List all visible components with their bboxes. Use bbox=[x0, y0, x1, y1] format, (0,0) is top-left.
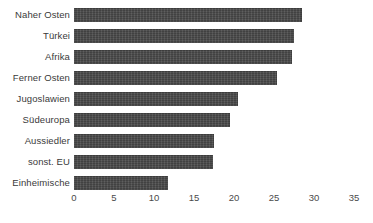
bar-track bbox=[74, 155, 354, 169]
chart-row: Ferner Osten bbox=[0, 70, 373, 91]
chart-row: Afrika bbox=[0, 49, 373, 70]
bar bbox=[74, 8, 302, 22]
bar bbox=[74, 134, 214, 148]
chart-row: Naher Osten bbox=[0, 7, 373, 28]
bar-chart: Naher Osten Türkei Afrika Ferner Osten J bbox=[0, 0, 373, 223]
bar-track bbox=[74, 92, 354, 106]
bar bbox=[74, 29, 294, 43]
x-axis-tick: 20 bbox=[214, 192, 254, 204]
category-label: Aussiedler bbox=[0, 135, 70, 147]
chart-plot-area: Naher Osten Türkei Afrika Ferner Osten J bbox=[0, 7, 373, 196]
bar bbox=[74, 155, 213, 169]
bar-track bbox=[74, 176, 354, 190]
bar bbox=[74, 50, 292, 64]
x-axis-tick: 35 bbox=[334, 192, 373, 204]
x-axis-tick: 15 bbox=[174, 192, 214, 204]
x-axis-tick: 25 bbox=[254, 192, 294, 204]
bar bbox=[74, 176, 168, 190]
bar bbox=[74, 113, 230, 127]
bar-track bbox=[74, 71, 354, 85]
category-label: Naher Osten bbox=[0, 9, 70, 21]
bar bbox=[74, 71, 277, 85]
category-label: Einheimische bbox=[0, 177, 70, 189]
bar-track bbox=[74, 50, 354, 64]
chart-row: Aussiedler bbox=[0, 133, 373, 154]
x-axis-tick: 10 bbox=[134, 192, 174, 204]
bar-track bbox=[74, 134, 354, 148]
category-label: sonst. EU bbox=[0, 156, 70, 168]
category-label: Jugoslawien bbox=[0, 93, 70, 105]
category-label: Südeuropa bbox=[0, 114, 70, 126]
chart-row: Türkei bbox=[0, 28, 373, 49]
chart-row: Südeuropa bbox=[0, 112, 373, 133]
bar bbox=[74, 92, 238, 106]
chart-row: Jugoslawien bbox=[0, 91, 373, 112]
chart-row: sonst. EU bbox=[0, 154, 373, 175]
x-axis-tick: 5 bbox=[94, 192, 134, 204]
x-axis: 0 5 10 15 20 25 30 35 bbox=[74, 192, 354, 212]
bar-track bbox=[74, 8, 354, 22]
bar-track bbox=[74, 29, 354, 43]
x-axis-tick: 0 bbox=[54, 192, 94, 204]
category-label: Türkei bbox=[0, 30, 70, 42]
bar-track bbox=[74, 113, 354, 127]
category-label: Ferner Osten bbox=[0, 72, 70, 84]
category-label: Afrika bbox=[0, 51, 70, 63]
x-axis-tick: 30 bbox=[294, 192, 334, 204]
